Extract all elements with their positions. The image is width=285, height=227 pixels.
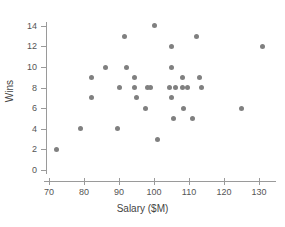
y-axis-tick (41, 170, 47, 171)
data-point (54, 147, 59, 152)
x-axis-line (44, 181, 276, 182)
data-point (194, 34, 199, 39)
x-axis-tick (259, 178, 260, 185)
y-axis-tick-label: 4 (15, 125, 37, 134)
data-point (171, 116, 176, 121)
x-axis-tick (189, 178, 190, 185)
data-point (190, 116, 195, 121)
data-point (197, 75, 202, 80)
y-axis-title: Wins (5, 65, 15, 117)
data-point (143, 106, 148, 111)
y-axis-tick (41, 67, 47, 68)
x-axis-tick (49, 178, 50, 185)
y-axis-tick-label: 2 (15, 145, 37, 154)
data-point (239, 106, 244, 111)
x-axis-tick (154, 178, 155, 185)
y-axis-tick-label: 8 (15, 84, 37, 93)
data-point (180, 75, 185, 80)
data-point (180, 85, 185, 90)
plot-area (49, 20, 274, 172)
y-axis-tick-label: 12 (15, 42, 37, 51)
x-axis-tick (84, 178, 85, 185)
data-point (169, 65, 174, 70)
y-axis-tick-label: 10 (15, 63, 37, 72)
data-point (152, 23, 157, 28)
x-axis-tick-label: 80 (69, 188, 99, 197)
y-axis-tick (41, 88, 47, 89)
data-point (173, 85, 178, 90)
y-axis-tick-label: 0 (15, 166, 37, 175)
y-axis-tick (41, 26, 47, 27)
x-axis-tick-label: 90 (104, 188, 134, 197)
y-axis-tick (41, 149, 47, 150)
x-axis-tick-label: 110 (174, 188, 204, 197)
x-axis-tick-label: 120 (209, 188, 239, 197)
x-axis-tick-label: 100 (139, 188, 169, 197)
data-point (169, 44, 174, 49)
data-point (89, 95, 94, 100)
y-axis-tick (41, 46, 47, 47)
x-axis-tick (224, 178, 225, 185)
x-axis-tick (119, 178, 120, 185)
data-point (103, 65, 108, 70)
data-point (124, 65, 129, 70)
x-axis-tick-label: 70 (34, 188, 64, 197)
data-point (122, 34, 127, 39)
data-point (199, 85, 204, 90)
y-axis-tick-label: 14 (15, 22, 37, 31)
data-point (117, 85, 122, 90)
x-axis-tick-label: 130 (244, 188, 274, 197)
y-axis-tick (41, 129, 47, 130)
data-point (89, 75, 94, 80)
y-axis-line (46, 22, 47, 174)
data-point (260, 44, 265, 49)
y-axis-tick (41, 108, 47, 109)
y-axis-tick-label: 6 (15, 104, 37, 113)
data-point (181, 106, 186, 111)
data-point (185, 85, 190, 90)
scatter-chart: 02468101214 708090100110120130 Wins Sala… (0, 0, 285, 227)
data-point (155, 137, 160, 142)
x-axis-title: Salary ($M) (0, 204, 285, 214)
